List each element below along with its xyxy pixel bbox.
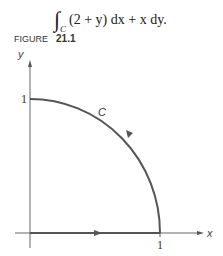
- quarter-circle-diagram: y x 1 1 C: [0, 0, 223, 256]
- direction-arrow-icon: [94, 230, 102, 236]
- arc-direction-arrow-icon: [126, 130, 133, 138]
- curve-label: C: [98, 106, 106, 118]
- x-axis-arrow-icon: [197, 231, 204, 235]
- x-axis-label: x: [206, 227, 213, 239]
- y-tick-label: 1: [21, 92, 27, 106]
- x-tick-label: 1: [157, 238, 163, 252]
- y-axis-label: y: [17, 48, 25, 60]
- path-arc: [30, 99, 160, 233]
- y-axis-arrow-icon: [28, 60, 32, 67]
